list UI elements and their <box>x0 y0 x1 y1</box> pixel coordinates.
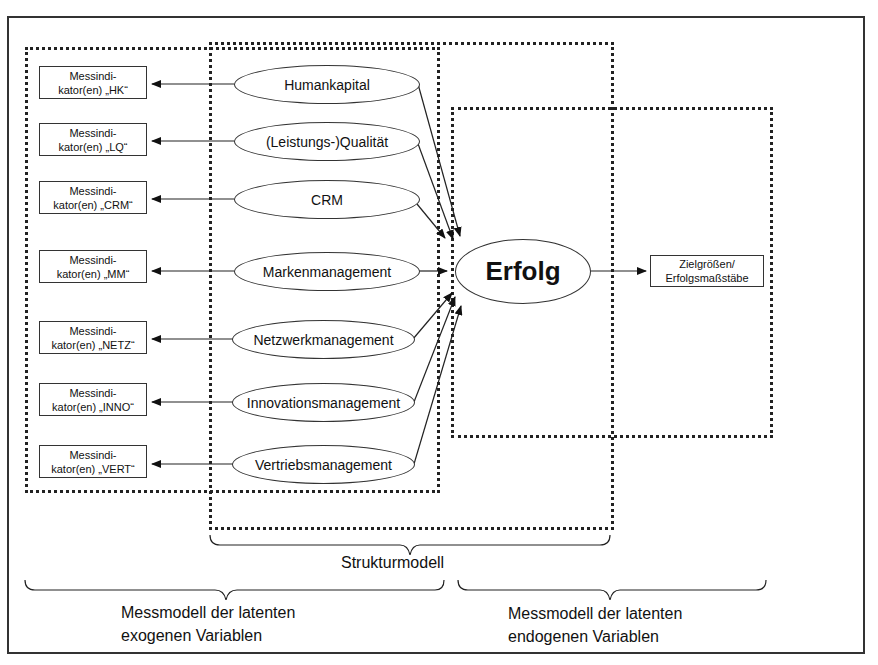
latent-erfolg: Erfolg <box>455 239 591 304</box>
indicator-label-line1: Messindi- <box>40 386 146 400</box>
target-label-line1: Zielgrößen/ <box>651 257 763 271</box>
diagram-canvas: Messindi- kator(en) „HK“ Messindi- kator… <box>0 0 878 665</box>
latent-humankapital: Humankapital <box>234 65 420 104</box>
indicator-label-line2: kator(en) „CRM“ <box>40 198 146 212</box>
indicator-label-line2: kator(en) „MM“ <box>40 267 146 281</box>
indicator-label-line2: kator(en) „LQ“ <box>40 140 146 154</box>
latent-vertriebsmanagement: Vertriebsmanagement <box>232 445 415 484</box>
indicator-label-line1: Messindi- <box>40 69 146 83</box>
target-label-line2: Erfolgsmaßstäbe <box>651 271 763 285</box>
indicator-label-line2: kator(en) „NETZ“ <box>40 338 146 352</box>
indicator-label-line1: Messindi- <box>40 184 146 198</box>
indicator-label-line2: kator(en) „HK“ <box>40 83 146 97</box>
indicator-box-vert: Messindi- kator(en) „VERT“ <box>39 445 147 478</box>
indicator-label-line2: kator(en) „VERT“ <box>40 462 146 476</box>
exogenous-measurement-label-line2: exogenen Variablen <box>121 625 262 647</box>
indicator-box-lq: Messindi- kator(en) „LQ“ <box>39 123 147 156</box>
indicator-label-line2: kator(en) „INNO“ <box>40 400 146 414</box>
indicator-label-line1: Messindi- <box>40 126 146 140</box>
latent-markenmanagement: Markenmanagement <box>234 252 420 291</box>
indicator-box-inno: Messindi- kator(en) „INNO“ <box>39 383 147 416</box>
indicator-box-hk: Messindi- kator(en) „HK“ <box>39 66 147 99</box>
indicator-label-line1: Messindi- <box>40 253 146 267</box>
indicator-box-mm: Messindi- kator(en) „MM“ <box>39 250 147 283</box>
latent-netzwerkmanagement: Netzwerkmanagement <box>232 320 415 359</box>
latent-innovationsmanagement: Innovationsmanagement <box>232 383 415 422</box>
latent-crm: CRM <box>234 180 420 219</box>
indicator-box-netz: Messindi- kator(en) „NETZ“ <box>39 321 147 354</box>
structural-model-label: Strukturmodell <box>341 552 444 574</box>
latent-leistungsqualitaet: (Leistungs-)Qualität <box>234 122 420 161</box>
endogenous-measurement-label-line1: Messmodell der latenten <box>508 603 682 625</box>
endogenous-measurement-label-line2: endogenen Variablen <box>508 626 659 648</box>
indicator-label-line1: Messindi- <box>40 448 146 462</box>
exogenous-measurement-label-line1: Messmodell der latenten <box>121 602 295 624</box>
target-measures-box: Zielgrößen/ Erfolgsmaßstäbe <box>650 255 764 287</box>
indicator-box-crm: Messindi- kator(en) „CRM“ <box>39 181 147 214</box>
indicator-label-line1: Messindi- <box>40 324 146 338</box>
